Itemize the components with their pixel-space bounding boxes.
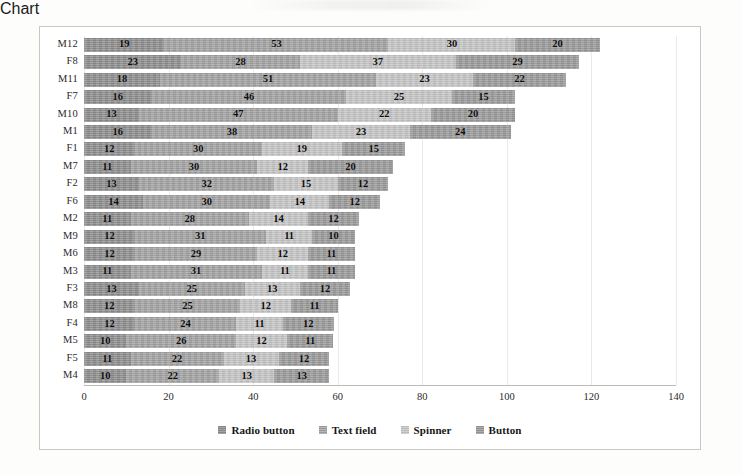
- bar-segment-spinner[interactable]: 25: [346, 90, 452, 104]
- bar-segment-button[interactable]: 11: [291, 299, 338, 313]
- bar-segment-radio-button[interactable]: 12: [84, 299, 135, 313]
- bar-segment-spinner[interactable]: 12: [236, 334, 287, 348]
- bar-row[interactable]: F823283729: [84, 55, 676, 69]
- bar-row[interactable]: F213321512: [84, 177, 676, 191]
- bar-segment-button[interactable]: 29: [456, 55, 579, 69]
- bar-segment-spinner[interactable]: 37: [300, 55, 456, 69]
- bar-segment-button[interactable]: 13: [274, 369, 329, 383]
- bar-segment-button[interactable]: 12: [308, 212, 359, 226]
- bar-segment-button[interactable]: 22: [473, 73, 566, 87]
- bar-segment-radio-button[interactable]: 23: [84, 55, 181, 69]
- bar-row[interactable]: F313251312: [84, 282, 676, 296]
- bar-segment-button[interactable]: 11: [308, 247, 355, 261]
- bar-segment-spinner[interactable]: 22: [338, 108, 431, 122]
- bar-segment-button[interactable]: 15: [452, 90, 515, 104]
- bar-segment-radio-button[interactable]: 13: [84, 177, 139, 191]
- bar-segment-spinner[interactable]: 12: [240, 299, 291, 313]
- legend-item-radio-button[interactable]: Radio button: [218, 424, 294, 436]
- bar-row[interactable]: M1013472220: [84, 108, 676, 122]
- bar-segment-radio-button[interactable]: 13: [84, 282, 139, 296]
- legend-item-button[interactable]: Button: [476, 424, 522, 436]
- bar-segment-text-field[interactable]: 28: [131, 212, 249, 226]
- stacked-bar[interactable]: 12301915: [84, 142, 405, 156]
- stacked-bar[interactable]: 14301412: [84, 195, 380, 209]
- bar-row[interactable]: M116382324: [84, 125, 676, 139]
- bar-segment-radio-button[interactable]: 14: [84, 195, 143, 209]
- bar-row[interactable]: F511221312: [84, 352, 676, 366]
- bar-row[interactable]: M211281412: [84, 212, 676, 226]
- bar-segment-spinner[interactable]: 11: [236, 317, 283, 331]
- stacked-bar[interactable]: 11281412: [84, 212, 359, 226]
- bar-segment-radio-button[interactable]: 18: [84, 73, 160, 87]
- legend-item-text-field[interactable]: Text field: [319, 424, 377, 436]
- bar-segment-button[interactable]: 11: [308, 265, 355, 279]
- bar-row[interactable]: M410221313: [84, 369, 676, 383]
- stacked-bar[interactable]: 13321512: [84, 177, 388, 191]
- bar-row[interactable]: M1219533020: [84, 38, 676, 52]
- bar-segment-radio-button[interactable]: 12: [84, 247, 135, 261]
- stacked-bar[interactable]: 12251211: [84, 299, 338, 313]
- bar-segment-text-field[interactable]: 29: [135, 247, 258, 261]
- stacked-bar[interactable]: 19533020: [84, 38, 600, 52]
- bar-segment-button[interactable]: 12: [279, 352, 330, 366]
- bar-segment-button[interactable]: 12: [300, 282, 351, 296]
- bar-row[interactable]: F614301412: [84, 195, 676, 209]
- legend-item-spinner[interactable]: Spinner: [401, 424, 452, 436]
- bar-segment-radio-button[interactable]: 19: [84, 38, 164, 52]
- bar-segment-text-field[interactable]: 53: [164, 38, 388, 52]
- bar-segment-text-field[interactable]: 22: [131, 352, 224, 366]
- bar-segment-radio-button[interactable]: 11: [84, 160, 131, 174]
- stacked-bar[interactable]: 18512322: [84, 73, 566, 87]
- bar-segment-text-field[interactable]: 46: [152, 90, 347, 104]
- bar-segment-radio-button[interactable]: 11: [84, 265, 131, 279]
- bar-segment-button[interactable]: 11: [287, 334, 334, 348]
- bar-segment-spinner[interactable]: 13: [245, 282, 300, 296]
- bar-row[interactable]: F716462515: [84, 90, 676, 104]
- bar-segment-spinner[interactable]: 12: [257, 247, 308, 261]
- bar-segment-text-field[interactable]: 30: [135, 142, 262, 156]
- bar-segment-radio-button[interactable]: 11: [84, 352, 131, 366]
- stacked-bar[interactable]: 13251312: [84, 282, 350, 296]
- bar-row[interactable]: M1118512322: [84, 73, 676, 87]
- bar-segment-radio-button[interactable]: 16: [84, 125, 152, 139]
- bar-segment-radio-button[interactable]: 12: [84, 142, 135, 156]
- bar-segment-text-field[interactable]: 30: [143, 195, 270, 209]
- bar-segment-button[interactable]: 20: [431, 108, 516, 122]
- bar-segment-text-field[interactable]: 38: [152, 125, 313, 139]
- bar-segment-spinner[interactable]: 15: [274, 177, 337, 191]
- bar-segment-radio-button[interactable]: 10: [84, 334, 126, 348]
- stacked-bar[interactable]: 16382324: [84, 125, 511, 139]
- bar-segment-text-field[interactable]: 26: [126, 334, 236, 348]
- bar-segment-spinner[interactable]: 13: [224, 352, 279, 366]
- bar-segment-text-field[interactable]: 31: [131, 265, 262, 279]
- bar-segment-text-field[interactable]: 30: [131, 160, 258, 174]
- bar-row[interactable]: M311311111: [84, 265, 676, 279]
- bar-segment-text-field[interactable]: 31: [135, 230, 266, 244]
- bar-segment-radio-button[interactable]: 11: [84, 212, 131, 226]
- stacked-bar[interactable]: 11311111: [84, 265, 355, 279]
- bar-row[interactable]: M711301220: [84, 160, 676, 174]
- bar-segment-radio-button[interactable]: 13: [84, 108, 139, 122]
- bar-segment-spinner[interactable]: 30: [388, 38, 515, 52]
- bar-segment-radio-button[interactable]: 12: [84, 230, 135, 244]
- bar-segment-button[interactable]: 24: [410, 125, 511, 139]
- bar-segment-radio-button[interactable]: 12: [84, 317, 135, 331]
- bar-row[interactable]: F112301915: [84, 142, 676, 156]
- stacked-bar[interactable]: 11301220: [84, 160, 393, 174]
- stacked-bar[interactable]: 16462515: [84, 90, 515, 104]
- stacked-bar[interactable]: 12291211: [84, 247, 355, 261]
- bar-segment-spinner[interactable]: 14: [270, 195, 329, 209]
- bar-segment-text-field[interactable]: 24: [135, 317, 236, 331]
- bar-segment-text-field[interactable]: 28: [181, 55, 299, 69]
- stacked-bar[interactable]: 13472220: [84, 108, 515, 122]
- bar-segment-spinner[interactable]: 23: [312, 125, 409, 139]
- bar-segment-text-field[interactable]: 25: [135, 299, 241, 313]
- stacked-bar[interactable]: 12311110: [84, 230, 355, 244]
- stacked-bar[interactable]: 10221313: [84, 369, 329, 383]
- bar-segment-button[interactable]: 20: [515, 38, 600, 52]
- bar-segment-spinner[interactable]: 11: [262, 265, 309, 279]
- bar-segment-spinner[interactable]: 11: [266, 230, 313, 244]
- bar-segment-button[interactable]: 10: [312, 230, 354, 244]
- bar-row[interactable]: F412241112: [84, 317, 676, 331]
- bar-row[interactable]: M912311110: [84, 230, 676, 244]
